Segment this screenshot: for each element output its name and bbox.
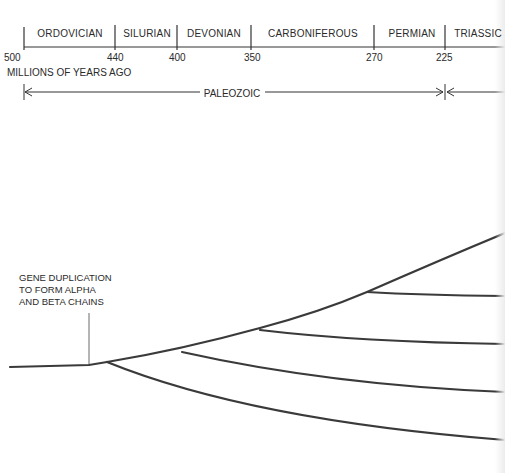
period-silurian: SILURIAN [123,28,171,39]
branch-2 [260,330,505,344]
branch-3 [182,352,505,392]
tick-225: 225 [436,52,453,63]
tick-400: 400 [169,52,186,63]
tick-270: 270 [366,52,383,63]
era-label: PALEOZOIC [201,88,264,99]
annotation-line: TO FORM ALPHA [19,284,112,296]
annotation-line: GENE DUPLICATION [19,272,112,284]
tick-500: 500 [4,52,21,63]
gene-duplication-annotation: GENE DUPLICATION TO FORM ALPHA AND BETA … [19,272,112,308]
tick-350: 350 [244,52,261,63]
period-triassic: TRIASSIC [454,28,502,39]
period-permian: PERMIAN [389,28,436,39]
annotation-line: AND BETA CHAINS [19,296,112,308]
branch-1 [367,292,505,296]
era-arrow [24,84,505,100]
page-edge-shadow [495,0,505,473]
axis-label: MILLIONS OF YEARS AGO [7,67,131,78]
period-devonian: DEVONIAN [187,28,241,39]
period-carboniferous: CARBONIFEROUS [268,28,358,39]
tree-branches [10,233,505,440]
tick-440: 440 [107,52,124,63]
period-ordovician: ORDOVICIAN [37,28,102,39]
trunk [10,362,107,367]
